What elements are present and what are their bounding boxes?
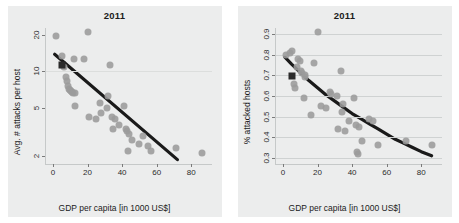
data-point bbox=[96, 99, 103, 106]
x-tick-mark bbox=[318, 164, 319, 167]
data-point bbox=[139, 133, 146, 140]
data-point bbox=[288, 47, 295, 54]
y-tick-label: 20 bbox=[33, 31, 41, 40]
x-tick-mark bbox=[53, 164, 54, 167]
y-axis-line bbox=[45, 28, 46, 164]
x-tick-mark bbox=[122, 164, 123, 167]
panel-left-y-axis-label: Avg. # attacks per host bbox=[12, 68, 22, 154]
y-tick-label: 5 bbox=[33, 105, 41, 109]
y-tick-label: 0.5 bbox=[263, 111, 271, 122]
x-tick-label: 60 bbox=[152, 169, 161, 177]
data-point bbox=[337, 68, 344, 75]
data-point bbox=[103, 104, 110, 111]
data-point bbox=[106, 62, 113, 69]
x-axis-line bbox=[45, 164, 212, 165]
data-point bbox=[115, 121, 122, 128]
x-tick-mark bbox=[191, 164, 192, 167]
data-point bbox=[81, 55, 88, 62]
x-tick-label: 40 bbox=[348, 169, 357, 177]
y-tick-label: 0.8 bbox=[263, 49, 271, 60]
data-point bbox=[98, 110, 105, 117]
panel-right-y-axis-label: % attacked hosts bbox=[242, 79, 252, 144]
y-tick-mark bbox=[272, 34, 275, 35]
x-tick-mark bbox=[157, 164, 158, 167]
data-point bbox=[105, 93, 112, 100]
x-tick-label: 60 bbox=[382, 169, 391, 177]
y-tick-mark bbox=[42, 156, 45, 157]
data-point bbox=[323, 105, 330, 112]
data-point bbox=[340, 101, 347, 108]
data-point bbox=[129, 136, 136, 143]
panel-left: 2011 251020020406080 Avg. # attacks per … bbox=[0, 0, 229, 223]
y-tick-label: 2 bbox=[33, 153, 41, 157]
y-tick-mark bbox=[272, 55, 275, 56]
data-point bbox=[356, 123, 363, 130]
data-point bbox=[148, 147, 155, 154]
panel-left-x-axis-label: GDP per capita [in 1000 US$] bbox=[0, 203, 229, 213]
y-tick-label: 0.3 bbox=[263, 152, 271, 163]
y-tick-mark bbox=[272, 158, 275, 159]
data-point bbox=[338, 109, 345, 116]
panel-right-plot-area: 0.30.40.50.60.70.80.9020406080 bbox=[276, 28, 442, 164]
y-tick-mark bbox=[272, 117, 275, 118]
data-point bbox=[125, 147, 132, 154]
y-tick-mark bbox=[272, 96, 275, 97]
y-tick-mark bbox=[272, 75, 275, 76]
y-tick-label: 10 bbox=[33, 67, 41, 76]
data-point bbox=[345, 117, 352, 124]
y-tick-mark bbox=[272, 137, 275, 138]
y-tick-label: 0.7 bbox=[263, 70, 271, 81]
data-point bbox=[136, 140, 143, 147]
x-tick-label: 0 bbox=[51, 169, 55, 177]
x-tick-mark bbox=[283, 164, 284, 167]
y-tick-mark bbox=[42, 71, 45, 72]
panel-right-title: 2011 bbox=[230, 10, 459, 21]
x-tick-label: 40 bbox=[118, 169, 127, 177]
data-point bbox=[369, 117, 376, 124]
data-point bbox=[300, 95, 307, 102]
x-tick-label: 80 bbox=[187, 169, 196, 177]
data-point bbox=[355, 150, 362, 157]
data-point bbox=[311, 60, 318, 67]
x-tick-mark bbox=[88, 164, 89, 167]
panel-right-x-axis-label: GDP per capita [in 1000 US$] bbox=[230, 203, 459, 213]
data-point bbox=[93, 116, 100, 123]
data-point bbox=[198, 149, 205, 156]
x-tick-label: 20 bbox=[83, 169, 92, 177]
data-point bbox=[428, 142, 435, 149]
data-point bbox=[85, 28, 92, 35]
gridline-horizontal bbox=[276, 117, 442, 118]
panel-left-plot-area: 251020020406080 bbox=[46, 28, 212, 164]
panel-right: 2011 0.30.40.50.60.70.80.9020406080 % at… bbox=[230, 0, 459, 223]
highlighted-data-point bbox=[289, 73, 296, 80]
data-point bbox=[350, 95, 357, 102]
panel-left-title: 2011 bbox=[0, 10, 229, 21]
data-point bbox=[402, 138, 409, 145]
x-tick-label: 80 bbox=[417, 169, 426, 177]
data-point bbox=[359, 138, 366, 145]
data-point bbox=[297, 57, 304, 64]
figure-scatter-panels: 2011 251020020406080 Avg. # attacks per … bbox=[0, 0, 459, 223]
x-axis-line bbox=[275, 164, 442, 165]
data-point bbox=[315, 29, 322, 36]
y-tick-label: 0.4 bbox=[263, 132, 271, 143]
y-tick-mark bbox=[42, 35, 45, 36]
data-point bbox=[292, 84, 299, 91]
gridline-horizontal bbox=[46, 71, 212, 72]
x-tick-mark bbox=[352, 164, 353, 167]
x-tick-mark bbox=[387, 164, 388, 167]
data-point bbox=[70, 56, 77, 63]
x-tick-mark bbox=[421, 164, 422, 167]
data-point bbox=[52, 32, 59, 39]
data-point bbox=[172, 145, 179, 152]
data-point bbox=[375, 142, 382, 149]
data-point bbox=[72, 90, 79, 97]
data-point bbox=[333, 93, 340, 100]
data-point bbox=[302, 74, 309, 81]
x-tick-label: 0 bbox=[281, 169, 285, 177]
gridline-horizontal bbox=[276, 34, 442, 35]
data-point bbox=[342, 128, 349, 135]
y-tick-mark bbox=[42, 108, 45, 109]
data-point bbox=[307, 111, 314, 118]
data-point bbox=[120, 102, 127, 109]
